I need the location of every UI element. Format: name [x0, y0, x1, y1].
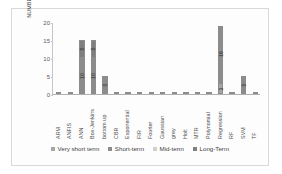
legend-label: Very short term	[57, 145, 99, 152]
bar-segment[interactable]: 5	[102, 76, 107, 94]
bar-column[interactable]	[137, 92, 142, 94]
bar-column[interactable]: 316	[218, 26, 223, 94]
bar-segment[interactable]	[137, 92, 142, 94]
x-axis-label: SVM	[240, 97, 246, 139]
bar-segment[interactable]: 3	[218, 83, 223, 94]
x-axis-label: grey	[170, 97, 176, 139]
bar-segment[interactable]: 5	[91, 40, 96, 58]
x-axis-label: CBR	[113, 97, 119, 139]
x-axis-label: ANFIS	[66, 97, 72, 139]
bar-column[interactable]	[114, 92, 119, 94]
y-axis-tick-mark	[51, 95, 53, 96]
bar-value-label: 5	[241, 84, 246, 87]
legend-swatch	[51, 147, 55, 151]
bar-value-label: 10	[91, 73, 96, 79]
y-axis-tick-label: 5	[47, 74, 50, 80]
legend-swatch	[193, 147, 197, 151]
bar-segment[interactable]	[206, 92, 211, 94]
chart-container: NUMBER OF PAPERS 0510152010510553165 ARM…	[11, 8, 269, 166]
legend-item[interactable]: Mid-term	[153, 145, 184, 152]
bar-value-label: 3	[218, 87, 223, 90]
x-axis-label: RF	[228, 97, 234, 139]
bar-column[interactable]	[68, 92, 73, 94]
legend-item[interactable]: Short-term	[108, 145, 144, 152]
bar-column[interactable]	[195, 92, 200, 94]
y-axis-tick-mark	[51, 23, 53, 24]
bar-column[interactable]	[56, 92, 61, 94]
y-axis-tick-label: 0	[47, 92, 50, 98]
x-axis-label: FIR	[136, 97, 142, 139]
bar-column[interactable]	[149, 92, 154, 94]
bar-segment[interactable]	[68, 92, 73, 94]
bar-segment[interactable]	[253, 92, 258, 94]
bar-segment[interactable]: 10	[91, 58, 96, 94]
y-axis-title: NUMBER OF PAPERS	[26, 0, 38, 25]
x-axis-label: bottom up	[101, 97, 107, 139]
bar-segment[interactable]: 5	[79, 40, 84, 58]
x-axis-label: Fourier	[147, 97, 153, 139]
bar-column[interactable]: 5	[102, 76, 107, 94]
x-axis-label: ARM	[55, 97, 61, 139]
bar-column[interactable]: 105	[79, 40, 84, 94]
bar-value-label: 5	[102, 84, 107, 87]
bar-segment[interactable]: 5	[241, 76, 246, 94]
y-axis-tick-mark	[51, 59, 53, 60]
bar-segment[interactable]	[114, 92, 119, 94]
bar-column[interactable]	[206, 92, 211, 94]
x-axis-label: Holt	[182, 97, 188, 139]
bar-value-label: 16	[218, 52, 223, 58]
bar-column[interactable]: 105	[91, 40, 96, 94]
chart-legend: Very short termShort-termMid-termLong-Te…	[12, 145, 268, 152]
bar-value-label: 10	[79, 73, 84, 79]
bar-segment[interactable]	[229, 92, 234, 94]
bar-segment[interactable]	[172, 92, 177, 94]
x-axis-labels: ARMANFISANNBox-Jenkinsbottom upCBRExpone…	[52, 97, 260, 141]
y-axis-tick-label: 15	[43, 38, 50, 44]
y-axis-tick-mark	[51, 77, 53, 78]
legend-item[interactable]: Very short term	[51, 145, 99, 152]
legend-label: Short-term	[115, 145, 144, 152]
bar-segment[interactable]	[56, 92, 61, 94]
legend-label: Long-Term	[200, 145, 230, 152]
plot-area-wrapper: 0510152010510553165	[52, 23, 260, 95]
bar-column[interactable]	[172, 92, 177, 94]
y-axis-tick-mark	[51, 41, 53, 42]
bar-value-label: 5	[91, 48, 96, 51]
bar-column[interactable]	[160, 92, 165, 94]
y-axis-tick-label: 20	[43, 20, 50, 26]
bar-column[interactable]	[183, 92, 188, 94]
bar-segment[interactable]: 10	[79, 58, 84, 94]
bar-column[interactable]	[229, 92, 234, 94]
x-axis-label: TF	[251, 97, 257, 139]
bar-segment[interactable]	[160, 92, 165, 94]
bar-column[interactable]	[253, 92, 258, 94]
x-axis-label: Gaussian	[159, 97, 165, 139]
x-axis-label: Polynomial	[205, 97, 211, 139]
bar-segment[interactable]	[125, 92, 130, 94]
legend-label: Mid-term	[160, 145, 184, 152]
bar-segment[interactable]: 16	[218, 26, 223, 84]
bar-column[interactable]: 5	[241, 76, 246, 94]
x-axis-label: Box-Jenkins	[89, 97, 95, 139]
plot-area: 0510152010510553165	[52, 23, 260, 95]
x-axis-label: ANN	[78, 97, 84, 139]
bar-segment[interactable]	[195, 92, 200, 94]
x-axis-label: Regression	[217, 97, 223, 139]
y-axis-tick-label: 10	[43, 56, 50, 62]
legend-swatch	[108, 147, 112, 151]
x-axis-label: MTR	[193, 97, 199, 139]
legend-swatch	[153, 147, 157, 151]
x-axis-label: Exponential	[124, 97, 130, 139]
bar-value-label: 5	[79, 48, 84, 51]
bar-column[interactable]	[125, 92, 130, 94]
bar-segment[interactable]	[149, 92, 154, 94]
bar-segment[interactable]	[183, 92, 188, 94]
y-axis-title-holder: NUMBER OF PAPERS	[28, 23, 40, 95]
legend-item[interactable]: Long-Term	[193, 145, 229, 152]
